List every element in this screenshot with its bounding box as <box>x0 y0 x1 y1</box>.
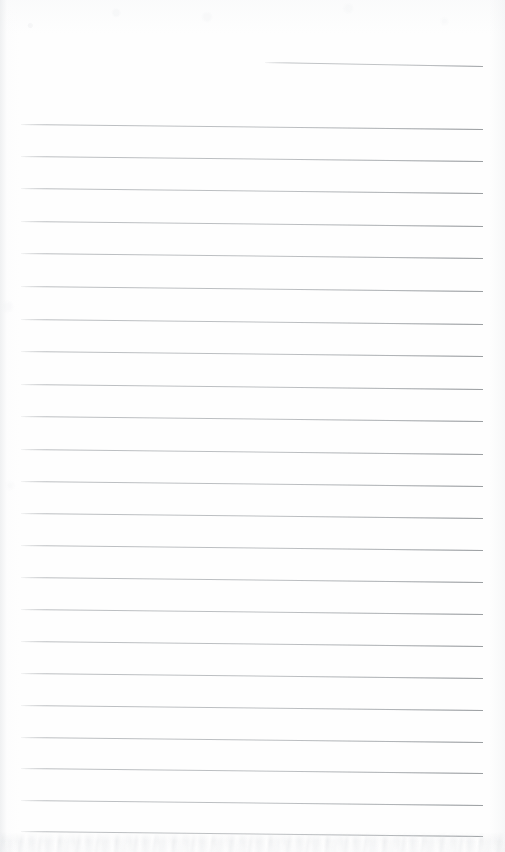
ruled-line <box>21 800 483 806</box>
ruled-line <box>21 641 483 647</box>
ruled-line <box>21 124 483 130</box>
ruled-line <box>21 673 483 679</box>
ruled-line <box>21 705 483 711</box>
ruled-line <box>21 319 483 325</box>
ruled-line <box>21 286 483 292</box>
partial-ruled-line <box>265 62 483 67</box>
ruled-line <box>21 221 483 227</box>
ruled-line <box>21 384 483 390</box>
ruled-line <box>21 513 483 519</box>
ruled-line <box>21 481 483 487</box>
ruled-line <box>21 609 483 615</box>
ruled-line <box>21 831 483 837</box>
ruled-line <box>21 351 483 357</box>
ruled-line <box>21 156 483 162</box>
bottom-scan-noise-band <box>0 832 505 852</box>
ruled-line <box>21 737 483 743</box>
scanned-page <box>0 0 505 852</box>
ruled-line <box>21 416 483 422</box>
ruled-line <box>21 577 483 583</box>
paper-tone-overlay <box>0 0 505 852</box>
scan-speckle-overlay <box>0 0 505 852</box>
ruled-line <box>21 545 483 551</box>
ruled-line <box>21 188 483 194</box>
ruled-lines-layer <box>0 0 505 852</box>
ruled-line <box>21 449 483 455</box>
ruled-line <box>21 768 483 774</box>
ruled-line <box>21 253 483 259</box>
